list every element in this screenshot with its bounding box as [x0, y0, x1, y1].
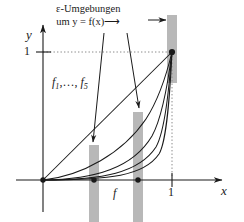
y-axis-label: y [26, 28, 32, 41]
curve-family-group [43, 52, 172, 180]
annotation-line-1: ε-Umgebungen [56, 3, 120, 14]
epsilon-band-left [89, 145, 99, 222]
left-dot [91, 177, 96, 182]
figure-canvas [0, 0, 244, 222]
curve-family-ellipsis: ,…, [59, 75, 77, 89]
axes-group [16, 25, 222, 212]
y-tick-label-one: 1 [24, 45, 30, 57]
epsilon-annotation-label: ε-Umgebungen um y = f(x)⟶ [56, 2, 120, 28]
annotation-line-2: um y = f(x)⟶ [56, 15, 120, 28]
middle-dot [135, 177, 140, 182]
x-axis-label: x [221, 184, 227, 197]
x-tick-label-one: 1 [168, 186, 174, 198]
curve-family-label: f1,…, f5 [52, 76, 88, 92]
epsilon-band-middle [133, 112, 143, 222]
annotation-arrow-right [127, 33, 139, 108]
corner-dot [169, 49, 175, 55]
origin-dot [40, 177, 45, 182]
annotation-arrows [93, 20, 166, 142]
function-point-label: f [113, 187, 116, 199]
curve-family-last-index: 5 [84, 82, 88, 91]
epsilon-neighborhood-figure: ε-Umgebungen um y = f(x)⟶ y x 1 1 f f1,…… [0, 0, 244, 222]
